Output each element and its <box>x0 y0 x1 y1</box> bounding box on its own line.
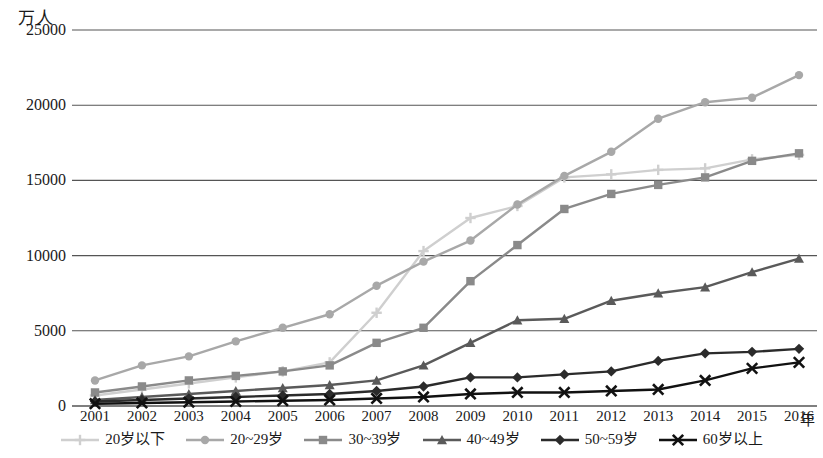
marker-plus <box>606 169 616 179</box>
series-line <box>95 75 799 380</box>
chart-legend: 20岁以下20~29岁30~39岁40~49岁50~59岁60岁以上 <box>0 432 823 447</box>
marker-diamond <box>794 344 804 354</box>
marker-diamond <box>554 434 564 444</box>
marker-square <box>279 367 287 375</box>
series-2 <box>91 71 803 385</box>
y-axis-tick-label: 20000 <box>0 96 66 114</box>
marker-square <box>513 241 521 249</box>
plot-area <box>72 30 817 406</box>
x-axis-tick-label: 2010 <box>502 408 532 425</box>
legend-item[interactable]: 60岁以上 <box>658 432 763 447</box>
legend-item[interactable]: 40~49岁 <box>422 432 520 447</box>
plot-svg <box>72 30 817 406</box>
legend-swatch-square-icon <box>303 433 343 447</box>
marker-circle <box>279 324 287 332</box>
legend-label: 40~49岁 <box>467 432 520 447</box>
series-1 <box>90 150 804 401</box>
legend-swatch-plus-icon <box>60 433 100 447</box>
marker-square <box>560 205 568 213</box>
legend-item[interactable]: 20岁以下 <box>60 432 165 447</box>
y-axis-tick-label: 10000 <box>0 247 66 265</box>
legend-label: 20岁以下 <box>105 432 165 447</box>
marker-square <box>795 149 803 157</box>
x-axis-tick-label: 2003 <box>174 408 204 425</box>
marker-circle <box>325 310 333 318</box>
marker-diamond <box>418 381 428 391</box>
legend-item[interactable]: 20~29岁 <box>185 432 283 447</box>
marker-square <box>372 339 380 347</box>
x-axis-tick-labels: 2001200220032004200520062007200820092010… <box>72 408 817 430</box>
marker-square <box>185 376 193 384</box>
x-axis-tick-label: 2015 <box>737 408 767 425</box>
y-axis-tick-label: 15000 <box>0 171 66 189</box>
marker-plus <box>653 165 663 175</box>
x-axis-tick-label: 2006 <box>315 408 345 425</box>
marker-circle <box>701 98 709 106</box>
y-axis-tick-label: 0 <box>0 397 66 415</box>
marker-circle <box>560 172 568 180</box>
x-axis-tick-label: 2002 <box>127 408 157 425</box>
y-axis-tick-label: 5000 <box>0 322 66 340</box>
x-axis-tick-label: 2014 <box>690 408 720 425</box>
x-axis-tick-label: 2005 <box>268 408 298 425</box>
x-axis-tick-label: 2001 <box>80 408 110 425</box>
series-line <box>95 155 799 396</box>
marker-circle <box>795 71 803 79</box>
legend-item[interactable]: 30~39岁 <box>303 432 401 447</box>
marker-circle <box>138 361 146 369</box>
x-axis-tick-label: 2007 <box>362 408 392 425</box>
legend-item[interactable]: 50~59岁 <box>540 432 638 447</box>
legend-label: 20~29岁 <box>230 432 283 447</box>
marker-circle <box>232 337 240 345</box>
x-axis-tick-label: 2009 <box>455 408 485 425</box>
legend-swatch-triangle-icon <box>422 433 462 447</box>
marker-diamond <box>512 372 522 382</box>
x-axis-unit-label: 年 <box>800 408 815 429</box>
marker-circle <box>91 376 99 384</box>
marker-circle <box>748 93 756 101</box>
marker-circle <box>513 200 521 208</box>
legend-label: 60岁以上 <box>703 432 763 447</box>
marker-square <box>654 181 662 189</box>
marker-diamond <box>606 366 616 376</box>
marker-square <box>607 190 615 198</box>
legend-label: 30~39岁 <box>348 432 401 447</box>
marker-circle <box>466 236 474 244</box>
y-axis-tick-labels: 0500010000150002000025000 <box>0 30 66 406</box>
x-axis-tick-label: 2008 <box>409 408 439 425</box>
y-axis-tick-label: 25000 <box>0 21 66 39</box>
marker-diamond <box>653 356 663 366</box>
x-axis-tick-label: 2012 <box>596 408 626 425</box>
marker-diamond <box>700 348 710 358</box>
marker-plus <box>75 434 85 444</box>
marker-diamond <box>465 372 475 382</box>
marker-circle <box>185 352 193 360</box>
marker-plus <box>700 163 710 173</box>
x-axis-tick-label: 2004 <box>221 408 251 425</box>
marker-square <box>319 435 327 443</box>
marker-square <box>748 157 756 165</box>
legend-swatch-circle-icon <box>185 433 225 447</box>
marker-diamond <box>747 347 757 357</box>
legend-swatch-diamond-icon <box>540 433 580 447</box>
marker-square <box>232 372 240 380</box>
marker-circle <box>372 281 380 289</box>
x-axis-tick-label: 2011 <box>550 408 579 425</box>
marker-circle <box>607 148 615 156</box>
marker-triangle <box>794 254 804 263</box>
marker-square <box>325 361 333 369</box>
marker-square <box>419 324 427 332</box>
marker-circle <box>201 435 209 443</box>
marker-square <box>138 382 146 390</box>
x-axis-tick-label: 2013 <box>643 408 673 425</box>
marker-circle <box>419 257 427 265</box>
marker-circle <box>654 115 662 123</box>
legend-swatch-cross-icon <box>658 433 698 447</box>
legend-label: 50~59岁 <box>585 432 638 447</box>
marker-square <box>701 173 709 181</box>
line-chart: 万人 0500010000150002000025000 20012002200… <box>0 0 823 458</box>
marker-diamond <box>559 369 569 379</box>
marker-square <box>466 277 474 285</box>
series-3 <box>91 149 803 397</box>
series-line <box>95 153 799 392</box>
